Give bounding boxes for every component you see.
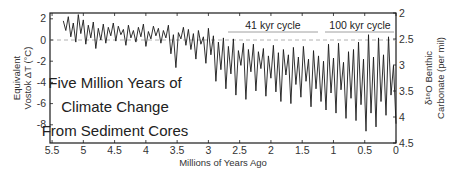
- svg-text:Equivalent: Equivalent: [11, 55, 22, 100]
- left-y-axis-tick-labels: 20-2-4-6-8: [37, 12, 47, 130]
- left-y-tick-label: -2: [37, 55, 46, 67]
- x-tick-label: 4.5: [107, 144, 122, 156]
- x-tick-label: 2: [268, 144, 274, 156]
- svg-text:Climate Change: Climate Change: [61, 98, 169, 115]
- svg-text:Five Million Years of: Five Million Years of: [48, 74, 182, 91]
- x-tick-label: 4: [143, 144, 149, 156]
- left-y-axis-title: Equivalent Vostok ΔT (°C): [11, 47, 33, 110]
- left-y-tick-label: -4: [37, 76, 46, 88]
- left-y-tick-label: 0: [40, 34, 46, 46]
- right-y-tick-label: 2.5: [399, 33, 414, 45]
- right-y-axis-title: δ¹⁸O Benthic Carbonate (per mil): [423, 37, 446, 119]
- right-y-axis-tick-labels: 22.533.544.5: [399, 7, 414, 149]
- svg-text:Carbonate (per mil): Carbonate (per mil): [435, 37, 446, 119]
- x-tick-label: 1.5: [295, 144, 310, 156]
- x-tick-label: 3: [205, 144, 211, 156]
- climate-chart: 5.554.543.532.521.510.50 20-2-4-6-8 22.5…: [0, 0, 453, 181]
- x-tick-label: 3.5: [170, 144, 185, 156]
- right-y-tick-label: 3: [399, 59, 405, 71]
- 100kyr-cycle-label: 100 kyr cycle: [329, 19, 390, 31]
- 41kyr-cycle-label: 41 kyr cycle: [245, 19, 301, 31]
- right-y-tick-label: 4.5: [399, 137, 414, 149]
- right-y-tick-label: 3.5: [399, 85, 414, 97]
- right-y-tick-label: 2: [399, 7, 405, 19]
- x-tick-label: 2.5: [232, 144, 247, 156]
- x-tick-label: 5.5: [45, 144, 60, 156]
- svg-text:Vostok ΔT (°C): Vostok ΔT (°C): [22, 47, 33, 110]
- right-y-tick-label: 4: [399, 111, 405, 123]
- cycle-annotations: 41 kyr cycle 100 kyr cycle: [228, 19, 394, 32]
- x-axis-title: Millions of Years Ago: [179, 157, 267, 168]
- x-tick-label: 0.5: [357, 144, 372, 156]
- chart-title: Five Million Years of Climate Change Fro…: [42, 74, 189, 139]
- x-tick-label: 5: [80, 144, 86, 156]
- svg-text:δ¹⁸O Benthic: δ¹⁸O Benthic: [423, 51, 434, 105]
- left-y-tick-label: 2: [40, 12, 46, 24]
- svg-text:From Sediment Cores: From Sediment Cores: [42, 122, 189, 139]
- x-tick-label: 1: [331, 144, 337, 156]
- left-y-tick-label: -6: [37, 97, 46, 109]
- x-axis-tick-labels: 5.554.543.532.521.510.50: [45, 144, 399, 156]
